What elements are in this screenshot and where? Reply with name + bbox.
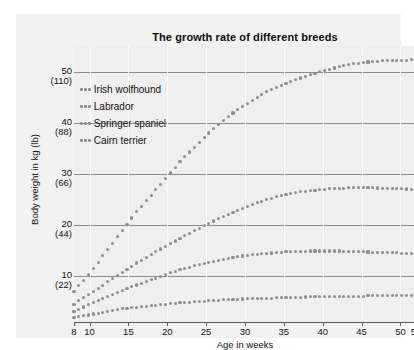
y-tick-lb: (66) — [38, 178, 72, 188]
series-marker — [150, 194, 153, 197]
chart-frame: The growth rate of different breeds 10(2… — [16, 14, 401, 338]
series-marker — [92, 290, 95, 293]
series-marker — [323, 188, 326, 191]
gridline-vertical — [245, 46, 246, 322]
series-marker — [125, 307, 128, 310]
series-marker — [150, 253, 153, 256]
y-tick-label: 10(22) — [38, 270, 72, 290]
series-marker — [164, 303, 167, 306]
series-marker — [400, 252, 403, 255]
series-marker — [140, 259, 143, 262]
series-marker — [231, 211, 234, 214]
legend-item-label: Labrador — [94, 101, 134, 112]
series-marker — [217, 299, 220, 302]
x-tick-label: 25 — [193, 326, 219, 337]
series-marker — [333, 249, 336, 252]
x-tick-label: 35 — [271, 326, 297, 337]
series-marker — [92, 267, 95, 270]
y-tick-label: 40(88) — [38, 117, 72, 137]
legend-item: Irish wolfhound — [80, 82, 166, 97]
series-marker — [72, 290, 75, 293]
series-marker — [125, 287, 128, 290]
series-marker — [116, 291, 119, 294]
series-marker — [174, 302, 177, 305]
series-marker — [376, 60, 379, 63]
gridline-vertical — [167, 46, 168, 322]
scan-artifact-strip — [0, 0, 414, 12]
series-marker — [97, 299, 100, 302]
y-tick-label: 50(110) — [38, 66, 72, 86]
series-marker — [145, 256, 148, 259]
series-marker — [304, 190, 307, 193]
series-marker — [410, 188, 413, 191]
legend-marker-dots-icon — [80, 88, 91, 91]
x-axis-title: Age in weeks — [74, 339, 414, 350]
series-marker — [357, 295, 360, 298]
series-marker — [338, 65, 341, 68]
series-marker — [376, 186, 379, 189]
legend-item: Cairn terrier — [80, 133, 166, 148]
series-marker — [362, 61, 365, 64]
legend-marker-dots-icon — [80, 122, 91, 125]
series-marker — [338, 187, 341, 190]
series-marker — [198, 227, 201, 230]
series-marker — [92, 301, 95, 304]
series-marker — [203, 136, 206, 139]
series-marker — [313, 189, 316, 192]
x-axis-line — [74, 322, 414, 323]
series-marker — [227, 115, 230, 118]
series-marker — [391, 294, 394, 297]
legend-item-label: Irish wolfhound — [94, 84, 161, 95]
x-tick-label: 20 — [154, 326, 180, 337]
y-tick-lb: (22) — [38, 280, 72, 290]
y-tick-label: 30(66) — [38, 168, 72, 188]
series-marker — [284, 296, 287, 299]
series-marker — [381, 251, 384, 254]
series-marker — [323, 249, 326, 252]
series-marker — [188, 266, 191, 269]
series-marker — [256, 297, 259, 300]
legend-marker-dots-icon — [80, 105, 91, 108]
series-marker — [357, 62, 360, 65]
series-marker — [328, 68, 331, 71]
series-marker — [72, 303, 75, 306]
series-marker — [366, 186, 369, 189]
series-marker — [309, 73, 312, 76]
series-marker — [231, 111, 234, 114]
series-marker — [231, 298, 234, 301]
series-marker — [188, 301, 191, 304]
series-marker — [203, 224, 206, 227]
series-marker — [97, 287, 100, 290]
series-marker — [256, 253, 259, 256]
y-tick-lb: (110) — [38, 76, 72, 86]
series-marker — [386, 187, 389, 190]
series-marker — [159, 183, 162, 186]
series-marker — [121, 289, 124, 292]
gridline-vertical — [284, 46, 285, 322]
y-tick-lb: (88) — [38, 127, 72, 137]
series-marker — [376, 251, 379, 254]
series-marker — [270, 297, 273, 300]
series-marker — [174, 166, 177, 169]
series-marker — [299, 250, 302, 253]
series-marker — [405, 59, 408, 62]
x-tick-label: 45 — [349, 326, 375, 337]
series-marker — [313, 72, 316, 75]
gridline-vertical — [323, 46, 324, 322]
series-marker — [246, 254, 249, 257]
series-marker — [309, 189, 312, 192]
series-marker — [188, 150, 191, 153]
series-marker — [92, 312, 95, 315]
series-marker — [405, 252, 408, 255]
series-marker — [304, 75, 307, 78]
series-marker — [309, 249, 312, 252]
series-marker — [222, 215, 225, 218]
series-marker — [87, 313, 90, 316]
series-marker — [111, 242, 114, 245]
series-marker — [241, 297, 244, 300]
series-marker — [82, 279, 85, 282]
series-marker — [222, 258, 225, 261]
series-marker — [366, 250, 369, 253]
series-marker — [227, 257, 230, 260]
series-marker — [299, 296, 302, 299]
